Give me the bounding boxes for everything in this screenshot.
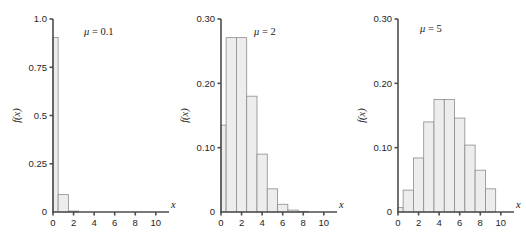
chart-canvas: 00.250.50.751.00246810xf(x)μ = 0.1 — [0, 0, 176, 249]
bar-x-7 — [465, 145, 475, 212]
y-tick-label: 0.10 — [374, 142, 393, 153]
chart-panel-mu-0-1: 00.250.50.751.00246810xf(x)μ = 0.1 — [0, 0, 176, 249]
x-tick-label: 0 — [395, 217, 400, 228]
y-axis-title: f(x) — [179, 108, 191, 123]
x-tick-label: 4 — [259, 217, 264, 228]
bar-x-5 — [267, 189, 277, 212]
y-tick-label: 0 — [42, 206, 47, 217]
x-tick-label: 0 — [218, 217, 223, 228]
chart-panel-mu-5: 00.100.200.300246810xf(x)μ = 5 — [350, 0, 526, 249]
bar-x-1 — [58, 195, 68, 212]
y-tick-label: 0.25 — [29, 158, 48, 169]
mu-value: = 0.1 — [89, 26, 113, 37]
bar-series — [53, 37, 79, 212]
x-tick-label: 8 — [478, 217, 483, 228]
mu-annotation: μ = 2 — [253, 26, 276, 37]
x-tick-label: 8 — [133, 217, 138, 228]
bar-x-6 — [455, 118, 465, 212]
x-axis-title: x — [515, 199, 521, 210]
bar-x-2 — [236, 38, 246, 212]
x-tick-label: 10 — [319, 217, 330, 228]
chart-panel-mu-2: 00.100.200.300246810xf(x)μ = 2 — [176, 0, 352, 249]
x-tick-label: 4 — [436, 217, 441, 228]
bar-x-1 — [403, 190, 413, 212]
y-axis-title: f(x) — [11, 108, 23, 123]
mu-annotation: μ = 5 — [419, 23, 442, 34]
mu-value: = 2 — [259, 26, 275, 37]
x-axis-title: x — [338, 199, 344, 210]
chart-canvas: 00.100.200.300246810xf(x)μ = 2 — [176, 0, 352, 249]
bar-x-2 — [413, 158, 423, 212]
poisson-figure: 00.250.50.751.00246810xf(x)μ = 0.1 00.10… — [0, 0, 526, 249]
y-tick-label: 0.20 — [197, 78, 216, 89]
bar-x-8 — [475, 170, 485, 212]
x-tick-label: 2 — [416, 217, 421, 228]
x-tick-label: 6 — [280, 217, 285, 228]
chart-canvas: 00.100.200.300246810xf(x)μ = 5 — [350, 0, 526, 249]
mu-annotation: μ = 0.1 — [83, 26, 114, 37]
bar-x-3 — [424, 122, 434, 212]
y-tick-label: 0.30 — [374, 13, 393, 24]
y-tick-label: 0.20 — [374, 78, 393, 89]
x-tick-label: 10 — [151, 217, 162, 228]
y-tick-label: 0.75 — [29, 62, 48, 73]
y-tick-label: 0.10 — [197, 142, 216, 153]
bar-series — [221, 38, 308, 212]
y-axis-title: f(x) — [356, 108, 368, 123]
bar-x-4 — [257, 154, 267, 212]
x-tick-label: 2 — [239, 217, 244, 228]
bar-series — [398, 99, 496, 212]
bar-x-5 — [444, 99, 454, 212]
x-tick-label: 10 — [496, 217, 507, 228]
bar-x-4 — [434, 99, 444, 212]
x-tick-label: 2 — [71, 217, 76, 228]
bar-x-6 — [278, 204, 288, 212]
x-tick-label: 4 — [91, 217, 96, 228]
bar-x-3 — [247, 96, 257, 212]
y-tick-label: 0.5 — [34, 110, 47, 121]
x-tick-label: 6 — [457, 217, 462, 228]
mu-value: = 5 — [425, 23, 441, 34]
y-tick-label: 0 — [387, 206, 392, 217]
x-tick-label: 6 — [112, 217, 117, 228]
bar-x-9 — [485, 189, 495, 212]
x-tick-label: 0 — [50, 217, 55, 228]
y-tick-label: 0 — [210, 206, 215, 217]
y-tick-label: 1.0 — [34, 13, 47, 24]
bar-x-1 — [226, 38, 236, 212]
y-tick-label: 0.30 — [197, 13, 216, 24]
x-tick-label: 8 — [301, 217, 306, 228]
